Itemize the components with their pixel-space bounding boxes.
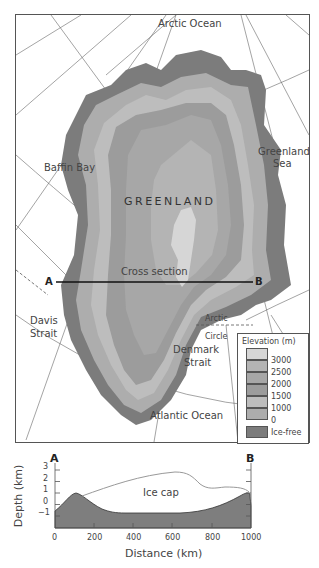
y-tick-neg1: −1 xyxy=(38,507,50,519)
label-greenland: GREENLAND xyxy=(124,195,215,208)
legend-label-1000: 1000 xyxy=(271,404,291,413)
ice-cap-label: Ice cap xyxy=(143,487,179,499)
legend-label-2000: 2000 xyxy=(271,380,291,389)
legend-swatch-0 xyxy=(246,408,268,420)
legend-swatch-1000 xyxy=(246,396,268,408)
cross-section-chart: A B 3 2 1 0 −1 0 200 400 600 800 1000 Di… xyxy=(0,448,319,568)
legend-label-2500: 2500 xyxy=(271,368,291,377)
label-point-b: B xyxy=(255,276,263,288)
y-tick-1: 1 xyxy=(43,484,48,496)
y-tick-3: 3 xyxy=(43,461,48,473)
x-tick-400: 400 xyxy=(126,532,141,544)
legend-label-0: 0 xyxy=(271,416,276,425)
x-tick-600: 600 xyxy=(165,532,180,544)
legend-swatch-ice-free xyxy=(246,426,268,438)
chart-label-a: A xyxy=(50,452,59,465)
legend-label-ice-free: Ice-free xyxy=(271,428,301,437)
label-greenland-sea-line1: Greenland xyxy=(258,146,310,158)
x-tick-800: 800 xyxy=(205,532,220,544)
y-axis-label: Depth (km) xyxy=(13,465,25,528)
chart-label-b: B xyxy=(246,452,254,465)
legend-swatch-2500 xyxy=(246,360,268,372)
label-arctic-ocean: Arctic Ocean xyxy=(158,18,222,30)
legend-swatch-1500 xyxy=(246,384,268,396)
label-baffin-bay: Baffin Bay xyxy=(44,162,95,174)
elevation-legend: Elevation (m) 3000 2500 2000 1500 1000 0… xyxy=(237,333,309,444)
label-greenland-sea-line2: Sea xyxy=(273,158,292,170)
label-point-a: A xyxy=(45,276,53,288)
legend-title: Elevation (m) xyxy=(242,337,296,346)
label-denmark-strait-line2: Strait xyxy=(184,357,211,369)
x-axis-label: Distance (km) xyxy=(125,548,202,560)
label-arctic-circle-line1: Arctic xyxy=(205,313,228,325)
legend-label-3000: 3000 xyxy=(271,356,291,365)
label-denmark-strait-line1: Denmark xyxy=(173,344,219,356)
label-cross-section: Cross section xyxy=(121,266,188,278)
legend-label-1500: 1500 xyxy=(271,392,291,401)
label-davis-strait-line2: Strait xyxy=(30,328,57,340)
legend-swatch-3000 xyxy=(246,348,268,360)
label-arctic-circle-line2: Circle xyxy=(205,331,227,343)
label-davis-strait-line1: Davis xyxy=(30,315,58,327)
legend-swatch-2000 xyxy=(246,372,268,384)
x-tick-200: 200 xyxy=(87,532,102,544)
label-atlantic-ocean: Atlantic Ocean xyxy=(150,410,223,422)
x-tick-0: 0 xyxy=(52,532,57,544)
x-tick-1000: 1000 xyxy=(241,532,261,544)
